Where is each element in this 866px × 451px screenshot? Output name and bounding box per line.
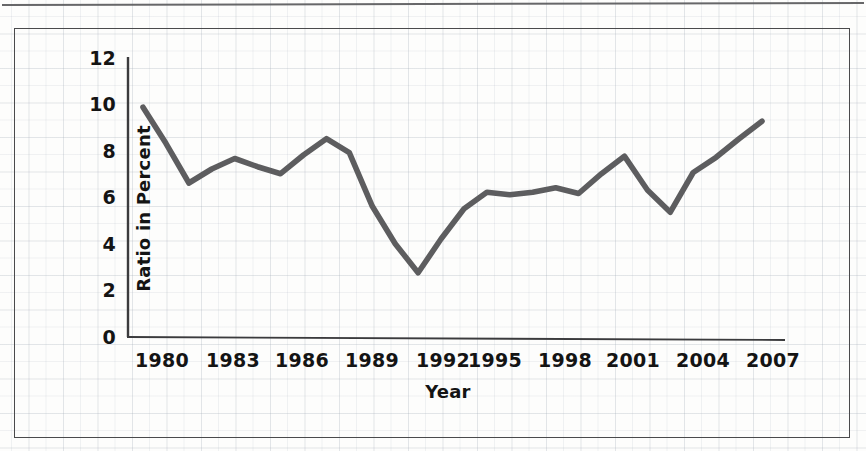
y-tick-label-10: 10: [78, 93, 116, 115]
x-axis-line: [127, 337, 785, 340]
x-tick-label-1989: 1989: [332, 349, 412, 371]
x-tick-label-1995: 1995: [455, 349, 535, 371]
x-axis-title: Year: [388, 381, 508, 402]
x-tick-label-2007: 2007: [733, 349, 813, 371]
y-axis-title: Ratio in Percent: [133, 99, 154, 319]
x-tick-label-1983: 1983: [193, 349, 273, 371]
x-tick-label-2001: 2001: [593, 349, 673, 371]
y-tick-label-12: 12: [78, 47, 116, 69]
x-tick-label-2004: 2004: [663, 349, 743, 371]
chart-page: 12 10 8 6 4 2 0 1980 1983 1986 1989 1992…: [0, 0, 866, 451]
x-tick-label-1986: 1986: [262, 349, 342, 371]
y-tick-label-8: 8: [78, 140, 116, 162]
y-tick-label-0: 0: [78, 326, 116, 348]
y-tick-label-4: 4: [78, 233, 116, 255]
x-tick-label-1980: 1980: [122, 349, 202, 371]
y-tick-label-2: 2: [78, 279, 116, 301]
y-tick-label-6: 6: [78, 186, 116, 208]
data-series-line: [143, 107, 762, 273]
